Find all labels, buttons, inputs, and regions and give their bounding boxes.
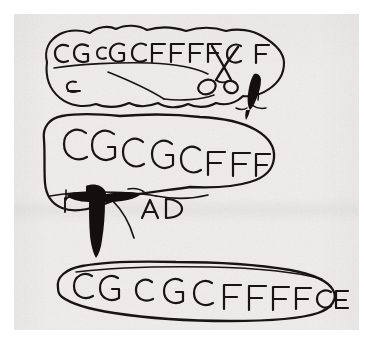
bottom-row-letters [74, 274, 348, 310]
middle-row-letters [64, 130, 270, 176]
middle-inner-letters [142, 199, 182, 218]
ink-artwork [0, 0, 373, 342]
top-small-c [67, 81, 80, 92]
cross-sword-icon [66, 185, 144, 259]
scanned-image: CG CG CFFFFC F c CGCGCFFF r A D CG CGC F… [0, 0, 373, 342]
middle-bubble [44, 114, 274, 238]
